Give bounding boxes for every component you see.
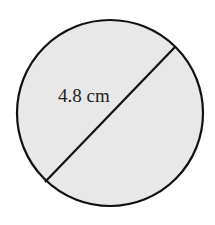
diameter-label: 4.8 cm	[58, 85, 110, 106]
circle-diagram: 4.8 cm	[0, 0, 215, 225]
